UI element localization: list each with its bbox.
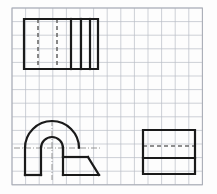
paper-background — [0, 0, 217, 194]
drawing-canvas — [0, 0, 217, 194]
orthographic-drawing — [0, 0, 217, 194]
